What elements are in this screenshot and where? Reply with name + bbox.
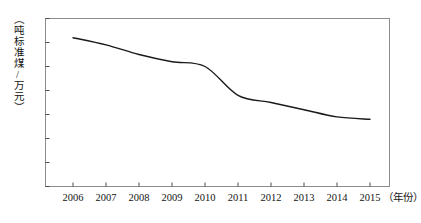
y-tick-marks <box>46 19 50 187</box>
x-tick-marks <box>73 183 370 187</box>
data-series-line <box>73 38 370 120</box>
plot-border <box>46 19 390 187</box>
